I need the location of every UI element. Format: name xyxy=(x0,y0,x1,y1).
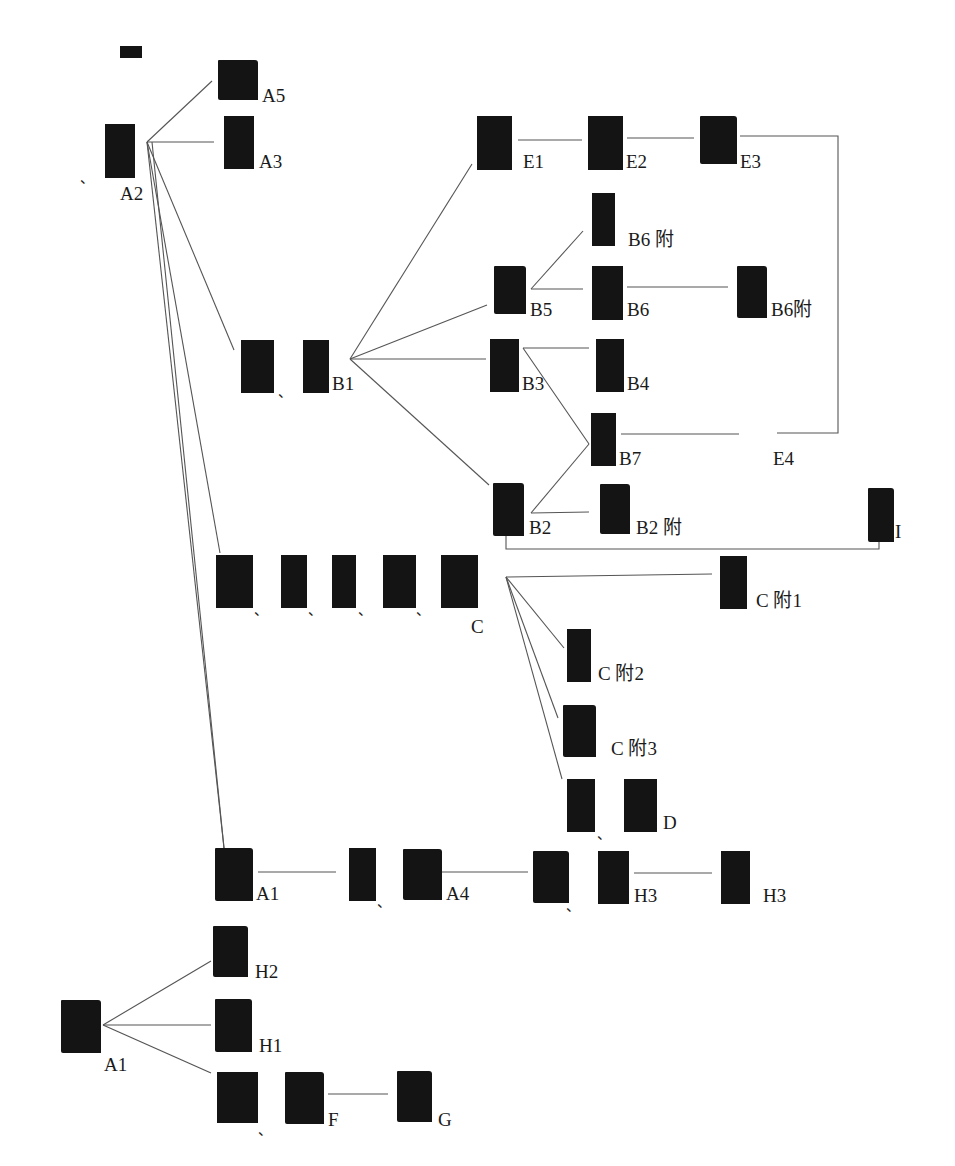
e1-glyph: ⿘ xyxy=(477,116,512,170)
h2-glyph: ⿘ xyxy=(213,926,248,977)
e2-label: E2 xyxy=(626,152,647,171)
a2-variant-glyph: ⿘ xyxy=(47,124,77,178)
separator-mark: 、 xyxy=(80,172,94,186)
e2-glyph: ⿘ xyxy=(588,116,623,170)
h3-a-label: H3 xyxy=(634,886,657,905)
b1-label: B1 xyxy=(332,374,354,393)
b5-label: B5 xyxy=(530,300,552,319)
h3-a-glyph: ⿘ xyxy=(598,851,629,904)
i-label: I xyxy=(895,522,901,541)
b6-appendix-right-label: B6附 xyxy=(771,300,812,319)
e3-glyph: ⿘ xyxy=(700,116,737,164)
c-variant-3-glyph: ⿘ xyxy=(332,555,356,608)
g-glyph: ⿘ xyxy=(397,1071,432,1122)
h3-b-label: H3 xyxy=(763,886,786,905)
separator-mark: 、 xyxy=(358,604,372,618)
c-glyph: ⿘ xyxy=(441,555,478,608)
h1-glyph: ⿘ xyxy=(215,999,252,1052)
c-appendix-1-glyph: ⿘ xyxy=(720,556,747,609)
a4-variant-glyph: ⿘ xyxy=(349,848,376,901)
top-fragment-glyph: ⿘ xyxy=(120,46,142,58)
b6-appendix-right-glyph: ⿘ xyxy=(737,266,767,318)
f-label: F xyxy=(328,1110,339,1129)
separator-mark: 、 xyxy=(377,896,391,910)
b1-glyph: ⿘ xyxy=(303,340,329,393)
a1-row-label: A1 xyxy=(256,884,279,903)
a2-label: A2 xyxy=(120,184,143,203)
b6-appendix-top-glyph: ⿘ xyxy=(592,193,615,246)
a5-glyph: ⿘ xyxy=(218,60,258,100)
separator-mark: 、 xyxy=(308,604,322,618)
separator-mark: 、 xyxy=(566,900,580,914)
e4-glyph: ⿘ xyxy=(741,414,775,466)
b6-appendix-top-label: B6 附 xyxy=(628,230,674,249)
b1-variant-glyph: ⿘ xyxy=(241,340,274,393)
c-appendix-3-glyph: ⿘ xyxy=(563,705,596,757)
h3-b-glyph: ⿘ xyxy=(721,851,750,904)
a1-root-glyph: ⿘ xyxy=(61,1000,101,1053)
d-variant-glyph: ⿘ xyxy=(567,779,595,832)
e3-label: E3 xyxy=(740,152,761,171)
b7-glyph: ⿘ xyxy=(591,413,616,466)
d-glyph: ⿘ xyxy=(624,779,657,832)
b5-glyph: ⿘ xyxy=(494,266,526,314)
c-variant-4-glyph: ⿘ xyxy=(383,555,416,608)
c-appendix-3-label: C 附3 xyxy=(611,739,657,758)
b4-glyph: ⿘ xyxy=(596,339,624,392)
b2-label: B2 xyxy=(529,518,551,537)
a5-label: A5 xyxy=(262,86,285,105)
b3-glyph: ⿘ xyxy=(490,339,519,392)
c-variant-1-glyph: ⿘ xyxy=(216,555,253,608)
b7-label: B7 xyxy=(619,449,641,468)
g-label: G xyxy=(438,1110,452,1129)
b2-appendix-glyph: ⿘ xyxy=(600,484,630,534)
a3-label: A3 xyxy=(259,152,282,171)
a4-label: A4 xyxy=(446,884,469,903)
separator-mark: 、 xyxy=(258,1124,272,1138)
b3-label: B3 xyxy=(522,374,544,393)
b2-appendix-label: B2 附 xyxy=(636,518,682,537)
h3-variant-glyph: ⿘ xyxy=(533,851,569,903)
a1-root-label: A1 xyxy=(104,1055,127,1074)
b6-label: B6 xyxy=(627,300,649,319)
a4-glyph: ⿘ xyxy=(403,849,442,900)
h1-label: H1 xyxy=(259,1036,282,1055)
b4-label: B4 xyxy=(627,374,649,393)
c-label: C xyxy=(471,617,484,636)
separator-mark: 、 xyxy=(254,604,268,618)
f-glyph: ⿘ xyxy=(285,1072,324,1124)
a2-glyph: ⿘ xyxy=(105,124,135,178)
a3-glyph: ⿘ xyxy=(224,116,254,169)
b2-glyph: ⿘ xyxy=(493,483,524,536)
c-variant-2-glyph: ⿘ xyxy=(281,555,307,608)
separator-mark: 、 xyxy=(416,604,430,618)
c-appendix-2-label: C 附2 xyxy=(598,664,644,683)
h2-label: H2 xyxy=(255,962,278,981)
e1-label: E1 xyxy=(523,152,544,171)
d-label: D xyxy=(663,813,677,832)
f-variant-glyph: ⿘ xyxy=(217,1072,258,1123)
i-glyph: ⿘ xyxy=(868,488,894,542)
c-appendix-1-label: C 附1 xyxy=(756,591,802,610)
c-appendix-2-glyph: ⿘ xyxy=(567,629,591,682)
separator-mark: 、 xyxy=(278,386,292,400)
a1-row-glyph: ⿘ xyxy=(215,848,253,901)
b6-glyph: ⿘ xyxy=(592,266,623,320)
separator-mark: 、 xyxy=(597,828,611,842)
e4-label: E4 xyxy=(773,449,794,468)
evolution-diagram: ⿘ ⿘ 、 ⿘ A2 ⿘ A5 ⿘ A3 ⿘ E1 ⿘ E2 ⿘ E3 ⿘ B6… xyxy=(0,0,955,1166)
